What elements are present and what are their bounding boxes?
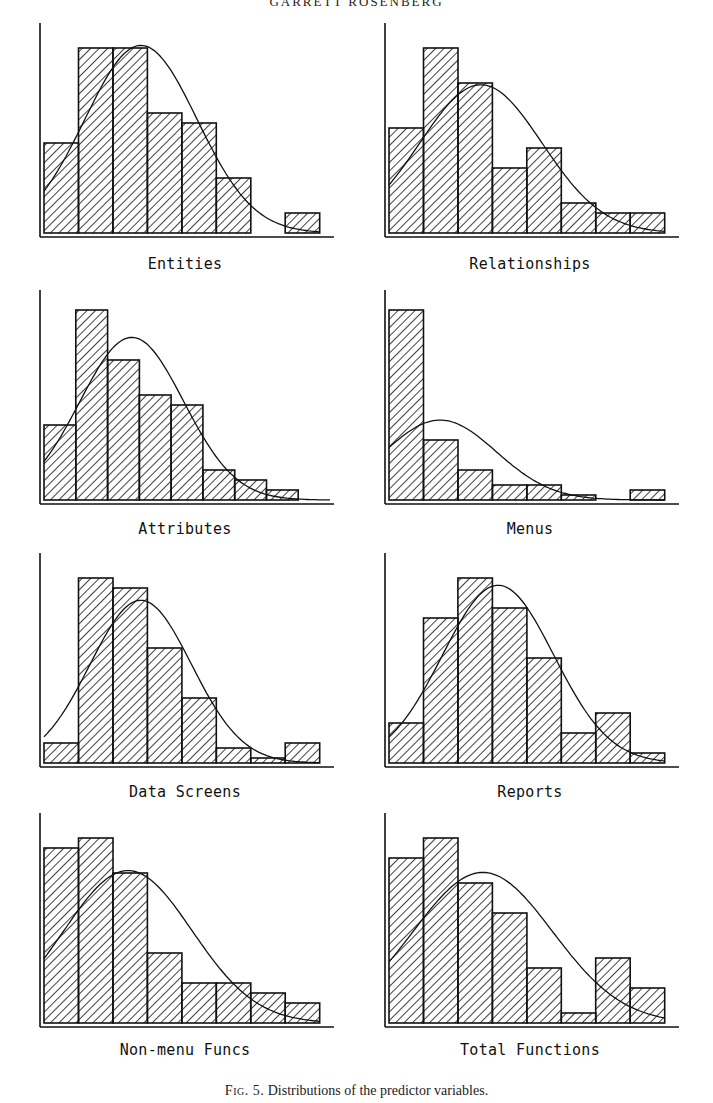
histogram-bar xyxy=(216,748,251,763)
histogram-bar xyxy=(147,113,182,233)
histogram-bar xyxy=(458,83,493,233)
histogram-bar xyxy=(44,425,76,500)
histogram-bar xyxy=(44,143,79,233)
histogram-bar xyxy=(44,743,79,763)
histogram-bar xyxy=(171,405,203,500)
panel-label: Menus xyxy=(375,520,685,538)
histogram-bar xyxy=(596,958,631,1023)
histogram-bar xyxy=(44,848,79,1023)
histogram-bar xyxy=(596,713,631,763)
histogram-bar xyxy=(182,698,217,763)
histogram-bar xyxy=(596,213,631,233)
histogram-bar xyxy=(561,203,596,233)
panel-label: Relationships xyxy=(375,255,685,273)
plot-area xyxy=(30,805,340,1040)
histogram-bar xyxy=(561,733,596,763)
histogram-bar xyxy=(492,485,527,500)
histogram-bar xyxy=(203,470,235,500)
plot-area xyxy=(30,282,340,517)
histogram-bar xyxy=(492,608,527,763)
plot-area xyxy=(30,545,340,780)
histogram-bar xyxy=(630,988,665,1023)
histogram-bar xyxy=(458,578,493,763)
figure-number: Fig. 5. xyxy=(225,1083,264,1098)
histogram-bar xyxy=(79,838,114,1023)
panel-label: Reports xyxy=(375,783,685,801)
histogram-bar xyxy=(76,310,108,500)
histogram-bar xyxy=(389,723,424,763)
panel-label: Entities xyxy=(30,255,340,273)
histogram-bar xyxy=(79,578,114,763)
caption-text: Distributions of the predictor variables… xyxy=(268,1083,488,1098)
histogram-bar xyxy=(424,618,459,763)
histogram-bar xyxy=(492,168,527,233)
histogram-bar xyxy=(139,395,171,500)
histogram-bar xyxy=(285,743,320,763)
plot-area xyxy=(375,805,685,1040)
histogram-bar xyxy=(216,983,251,1023)
histogram-data-screens: Data Screens xyxy=(30,545,340,785)
plot-area xyxy=(375,15,685,250)
plot-area xyxy=(375,282,685,517)
histogram-bar xyxy=(424,838,459,1023)
histogram-bar xyxy=(527,485,562,500)
histogram-relationships: Relationships xyxy=(375,15,685,255)
histogram-bar xyxy=(458,470,493,500)
running-header: GARRETT ROSENBERG xyxy=(0,0,713,10)
figure-caption: Fig. 5. Distributions of the predictor v… xyxy=(0,1083,713,1099)
panel-label: Data Screens xyxy=(30,783,340,801)
histogram-bar xyxy=(527,148,562,233)
histogram-bar xyxy=(389,128,424,233)
histogram-reports: Reports xyxy=(375,545,685,785)
histogram-bar xyxy=(424,440,459,500)
histogram-bar xyxy=(424,48,459,233)
histogram-bar xyxy=(389,310,424,500)
histogram-bar xyxy=(182,123,217,233)
histogram-bar xyxy=(147,953,182,1023)
panel-label: Total Functions xyxy=(375,1041,685,1059)
histogram-attributes: Attributes xyxy=(30,282,340,522)
histogram-non-menu-funcs: Non-menu Funcs xyxy=(30,805,340,1045)
plot-area xyxy=(375,545,685,780)
histogram-total-functions: Total Functions xyxy=(375,805,685,1045)
histogram-bar xyxy=(527,968,562,1023)
histogram-bar xyxy=(113,48,147,233)
histogram-menus: Menus xyxy=(375,282,685,522)
plot-area xyxy=(30,15,340,250)
histogram-bar xyxy=(108,360,140,500)
histogram-bar xyxy=(561,1013,596,1023)
histogram-bar xyxy=(527,658,562,763)
histogram-bar xyxy=(182,983,217,1023)
histogram-bar xyxy=(216,178,251,233)
histogram-bar xyxy=(251,993,286,1023)
histogram-bar xyxy=(458,883,493,1023)
histogram-bar xyxy=(630,490,665,500)
histogram-bar xyxy=(492,913,527,1023)
histogram-bar xyxy=(113,588,147,763)
histogram-bar xyxy=(147,648,182,763)
histogram-bar xyxy=(235,480,267,500)
histogram-bar xyxy=(285,1003,320,1023)
histogram-bar xyxy=(113,873,147,1023)
panel-label: Attributes xyxy=(30,520,340,538)
histogram-entities: Entities xyxy=(30,15,340,255)
panel-label: Non-menu Funcs xyxy=(30,1041,340,1059)
